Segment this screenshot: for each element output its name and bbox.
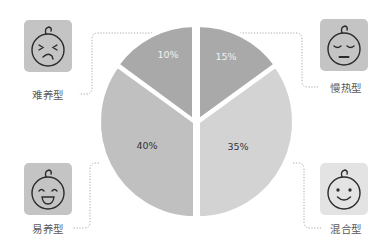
legend-label-slow: 慢热型 [330, 80, 362, 95]
icon-box-slow [320, 19, 368, 71]
laughing-baby-face-icon [24, 163, 72, 215]
crying-baby-face-icon [24, 20, 72, 72]
smiling-baby-face-icon [320, 163, 368, 215]
legend-label-mixed: 混合型 [330, 221, 362, 236]
pct-label-mixed: 35% [227, 141, 248, 152]
legend-label-easy: 易养型 [32, 221, 64, 236]
leader-line-easy [72, 163, 99, 228]
pct-label-easy: 40% [136, 140, 157, 151]
icon-box-easy [24, 163, 72, 215]
legend-label-difficult: 难养型 [32, 87, 64, 102]
leader-line-mixed [293, 163, 322, 228]
icon-box-difficult [24, 20, 72, 72]
pct-label-slow: 15% [215, 51, 236, 62]
pct-label-difficult: 10% [157, 49, 178, 60]
sleepy-baby-face-icon [320, 19, 368, 71]
icon-box-mixed [320, 163, 368, 215]
